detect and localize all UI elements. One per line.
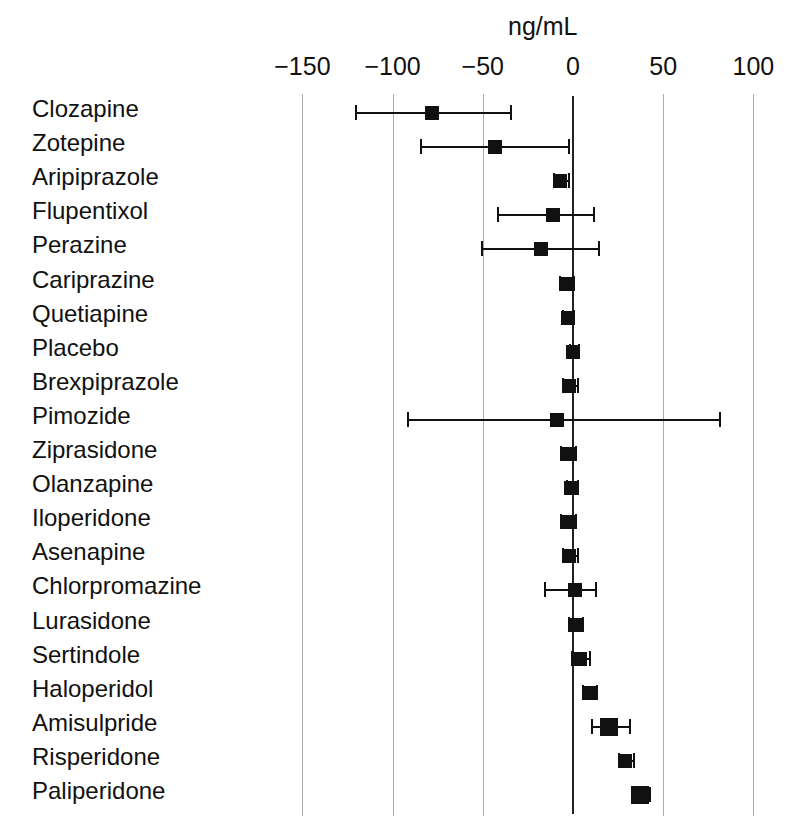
category-label-olanzapine: Olanzapine xyxy=(32,471,153,497)
confidence-interval-cap-upper xyxy=(593,207,595,222)
confidence-interval-cap-upper xyxy=(568,139,570,154)
point-estimate-marker xyxy=(488,140,502,154)
category-label-sertindole: Sertindole xyxy=(32,642,140,668)
confidence-interval-cap-upper xyxy=(577,378,579,393)
category-label-placebo: Placebo xyxy=(32,335,119,361)
confidence-interval-cap-upper xyxy=(633,753,635,768)
confidence-interval-cap-lower xyxy=(481,241,483,256)
category-label-ziprasidone: Ziprasidone xyxy=(32,437,157,463)
point-estimate-marker xyxy=(561,515,575,529)
category-label-cariprazine: Cariprazine xyxy=(32,267,155,293)
confidence-interval-cap-upper xyxy=(719,412,721,427)
category-label-iloperidone: Iloperidone xyxy=(32,505,151,531)
gridline-neg100 xyxy=(393,94,394,816)
x-tick-label-0: 0 xyxy=(566,52,580,81)
x-tick-label-neg150: −150 xyxy=(274,52,330,81)
confidence-interval-cap-upper xyxy=(575,446,577,461)
point-estimate-marker xyxy=(559,277,573,291)
x-tick-label-neg50: −50 xyxy=(462,52,504,81)
x-tick-label-neg100: −100 xyxy=(364,52,420,81)
confidence-interval-cap-upper xyxy=(595,582,597,597)
confidence-interval-cap-upper xyxy=(629,719,631,734)
point-estimate-marker xyxy=(561,447,575,461)
category-label-aripiprazole: Aripiprazole xyxy=(32,164,159,190)
x-tick-label-50: 50 xyxy=(649,52,677,81)
point-estimate-marker xyxy=(568,583,582,597)
category-label-clozapine: Clozapine xyxy=(32,96,139,122)
category-label-chlorpromazine: Chlorpromazine xyxy=(32,573,201,599)
confidence-interval-cap-upper xyxy=(573,276,575,291)
confidence-interval-cap-lower xyxy=(407,412,409,427)
point-estimate-marker xyxy=(561,311,575,325)
forest-plot: ng/mL −150−100−50050100 ClozapineZotepin… xyxy=(0,0,796,830)
point-estimate-marker xyxy=(534,242,548,256)
confidence-interval-cap-lower xyxy=(591,719,593,734)
confidence-interval-cap-lower xyxy=(355,105,357,120)
category-label-flupentixol: Flupentixol xyxy=(32,198,148,224)
point-estimate-marker xyxy=(553,174,567,188)
point-estimate-marker xyxy=(618,754,632,768)
point-estimate-marker xyxy=(564,481,578,495)
category-label-quetiapine: Quetiapine xyxy=(32,301,148,327)
point-estimate-marker xyxy=(566,345,580,359)
confidence-interval-cap-lower xyxy=(497,207,499,222)
confidence-interval-cap-upper xyxy=(596,685,598,700)
category-label-paliperidone: Paliperidone xyxy=(32,778,165,804)
category-label-risperidone: Risperidone xyxy=(32,744,160,770)
category-label-haloperidol: Haloperidol xyxy=(32,676,153,702)
category-label-pimozide: Pimozide xyxy=(32,403,131,429)
confidence-interval-line xyxy=(497,214,593,216)
confidence-interval-cap-upper xyxy=(575,514,577,529)
point-estimate-marker xyxy=(600,718,618,736)
confidence-interval-cap-upper xyxy=(598,241,600,256)
confidence-interval-cap-upper xyxy=(589,651,591,666)
point-estimate-marker xyxy=(550,413,564,427)
point-estimate-marker xyxy=(562,379,576,393)
confidence-interval-cap-upper xyxy=(577,548,579,563)
confidence-interval-cap-upper xyxy=(568,173,570,188)
category-label-amisulpride: Amisulpride xyxy=(32,710,157,736)
category-label-asenapine: Asenapine xyxy=(32,539,145,565)
gridline-100 xyxy=(753,94,754,816)
gridline-50 xyxy=(663,94,664,816)
point-estimate-marker xyxy=(425,106,439,120)
point-estimate-marker xyxy=(546,208,560,222)
axis-unit-label: ng/mL xyxy=(508,12,577,41)
category-label-perazine: Perazine xyxy=(32,232,127,258)
gridline-neg50 xyxy=(483,94,484,816)
confidence-interval-cap-upper xyxy=(649,787,651,802)
point-estimate-marker xyxy=(631,786,649,804)
confidence-interval-cap-upper xyxy=(582,617,584,632)
confidence-interval-cap-lower xyxy=(420,139,422,154)
x-tick-label-100: 100 xyxy=(733,52,775,81)
confidence-interval-cap-lower xyxy=(544,582,546,597)
category-label-lurasidone: Lurasidone xyxy=(32,608,151,634)
point-estimate-marker xyxy=(582,686,596,700)
point-estimate-marker xyxy=(562,549,576,563)
point-estimate-marker xyxy=(573,652,587,666)
gridline-neg150 xyxy=(302,94,303,816)
category-label-brexpiprazole: Brexpiprazole xyxy=(32,369,179,395)
point-estimate-marker xyxy=(568,618,582,632)
category-label-zotepine: Zotepine xyxy=(32,130,125,156)
confidence-interval-cap-upper xyxy=(510,105,512,120)
